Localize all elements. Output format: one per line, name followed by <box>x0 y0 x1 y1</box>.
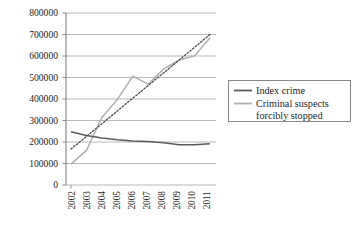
legend-label-index-crime: Index crime <box>256 85 305 96</box>
y-tick-label: 700000 <box>29 29 58 40</box>
x-tick-label: 2009 <box>172 191 182 210</box>
y-tick-label: 200000 <box>29 136 58 147</box>
y-tick-label: 0 <box>53 179 58 190</box>
y-tick-label: 600000 <box>29 50 58 61</box>
x-tick-label: 2011 <box>202 191 212 210</box>
x-tick-label: 2003 <box>82 191 92 210</box>
x-axis-tick-labels: 2002 2003 2004 2005 2006 2007 2008 2009 … <box>67 191 212 210</box>
y-tick-label: 300000 <box>29 115 58 126</box>
x-tick-label: 2006 <box>127 191 137 210</box>
y-tick-label: 500000 <box>29 72 58 83</box>
y-tick-label: 100000 <box>29 158 58 169</box>
legend: Index crime Criminal suspects forcibly s… <box>229 81 351 122</box>
x-tick-label: 2004 <box>97 191 107 210</box>
legend-label-criminal-suspects-line1: Criminal suspects <box>256 98 329 109</box>
y-tick-label: 400000 <box>29 93 58 104</box>
x-tick-label: 2008 <box>157 191 167 210</box>
chart-figure: 800000 700000 600000 500000 400000 30000… <box>0 0 357 226</box>
line-chart: 800000 700000 600000 500000 400000 30000… <box>0 0 357 226</box>
y-axis-tick-labels: 800000 700000 600000 500000 400000 30000… <box>29 7 58 190</box>
x-tick-label: 2010 <box>187 191 197 210</box>
x-tick-label: 2005 <box>112 191 122 210</box>
x-tick-label: 2002 <box>67 191 77 210</box>
y-tick-label: 800000 <box>29 7 58 18</box>
x-tick-label: 2007 <box>142 191 152 210</box>
legend-label-criminal-suspects-line2: forcibly stopped <box>256 110 323 121</box>
